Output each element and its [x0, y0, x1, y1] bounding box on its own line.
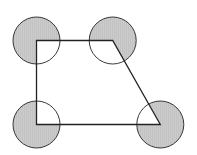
shaded-circle-regions — [13, 17, 184, 148]
trapezoid-circles-diagram — [0, 0, 197, 155]
trapezoid — [37, 41, 161, 125]
